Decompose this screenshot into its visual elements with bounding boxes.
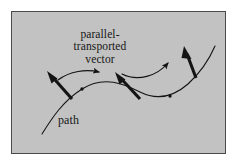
label-path: path <box>58 114 98 127</box>
vector-1 <box>47 71 72 99</box>
transport-arrow-1 <box>58 71 99 80</box>
vector-3 <box>182 46 197 78</box>
figure-drawing <box>0 0 239 166</box>
vector-3-head <box>182 46 192 59</box>
transport-arrows-group <box>58 63 168 80</box>
path-point-2 <box>168 94 171 97</box>
label-parallel-transported-vector: parallel- transported vector <box>58 28 142 65</box>
vector-1-shaft <box>53 77 73 99</box>
parallel-transport-figure: parallel- transported vector path <box>0 0 239 166</box>
path-point-1 <box>80 87 83 90</box>
